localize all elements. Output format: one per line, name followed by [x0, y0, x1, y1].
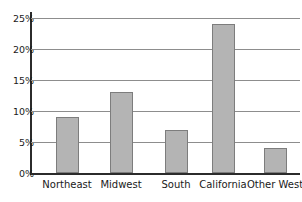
bar-northeast — [56, 117, 79, 173]
y-tick-label-25: 25% — [0, 13, 34, 24]
gridline-10 — [31, 111, 300, 112]
x-tick-label-midwest: Midwest — [100, 179, 141, 190]
gridline-20 — [31, 49, 300, 50]
y-tick-label-15: 15% — [0, 75, 34, 86]
y-tick-label-20: 20% — [0, 44, 34, 55]
x-tick-label-northeast: Northeast — [42, 179, 91, 190]
bar-south — [165, 130, 188, 173]
bar-other-west — [264, 148, 287, 173]
x-tick-label-other-west: Other West — [247, 179, 302, 190]
bar-chart: 25% 20% 15% 10% 5% 0% Northeast Midwest … — [0, 0, 302, 202]
y-tick-label-10: 10% — [0, 106, 34, 117]
x-tick-label-south: South — [161, 179, 190, 190]
bar-midwest — [110, 92, 133, 173]
bar-california — [212, 24, 235, 173]
x-axis-baseline — [31, 173, 300, 175]
gridline-25 — [31, 18, 300, 19]
gridline-15 — [31, 80, 300, 81]
plot-area — [31, 14, 300, 173]
y-tick-label-5: 5% — [0, 137, 34, 148]
y-tick-label-0: 0% — [0, 168, 34, 179]
x-tick-label-california: California — [199, 179, 247, 190]
